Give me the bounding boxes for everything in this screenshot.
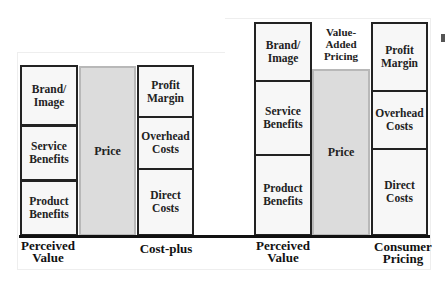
right-baseline (224, 235, 430, 238)
price-label: Price (94, 144, 121, 159)
left-perceived-value-label: Perceived Value (18, 240, 78, 264)
box-label: Service Benefits (22, 140, 76, 166)
box-label: Product Benefits (22, 195, 76, 221)
box-label: Brand/ Image (22, 83, 76, 109)
box-label: Product Benefits (256, 182, 310, 208)
right-perceived-value-label: Perceived Value (250, 240, 316, 264)
right-brand-image-box: Brand/ Image (254, 22, 312, 82)
left-brand-image-box: Brand/ Image (20, 65, 78, 126)
right-service-benefits-box: Service Benefits (254, 80, 312, 156)
box-label: Brand/ Image (256, 39, 310, 65)
box-label: Direct Costs (373, 179, 426, 205)
box-label: Overhead Costs (139, 130, 192, 156)
right-price-box: Price (312, 69, 370, 236)
left-price-box: Price (79, 66, 136, 236)
right-product-benefits-box: Product Benefits (254, 154, 312, 236)
cost-plus-label: Cost-plus (130, 243, 202, 255)
consumer-pricing-label: Consumer Pricing (370, 241, 436, 265)
left-profit-margin-box: Profit Margin (137, 65, 194, 118)
edge-mark-icon (441, 34, 445, 42)
left-direct-costs-box: Direct Costs (137, 168, 194, 236)
box-label: Service Benefits (256, 105, 310, 131)
left-overhead-costs-box: Overhead Costs (137, 116, 194, 170)
box-label: Profit Margin (139, 79, 192, 105)
left-service-benefits-box: Service Benefits (20, 125, 78, 181)
right-overhead-costs-box: Overhead Costs (371, 90, 428, 150)
box-label: Profit Margin (373, 44, 426, 70)
box-label: Direct Costs (139, 189, 192, 215)
value-added-pricing-label: Value-Added Pricing (316, 26, 366, 62)
left-product-benefits-box: Product Benefits (20, 180, 78, 236)
right-direct-costs-box: Direct Costs (371, 148, 428, 236)
price-label: Price (328, 145, 355, 160)
box-label: Overhead Costs (373, 107, 426, 133)
right-profit-margin-box: Profit Margin (371, 22, 428, 92)
